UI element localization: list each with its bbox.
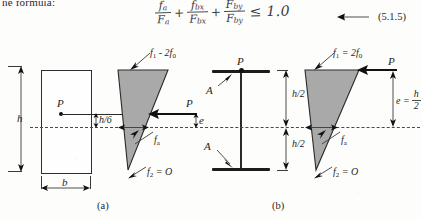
label-top-stress-b: f1 = 2f0: [333, 47, 362, 60]
term1-numerator: fa: [157, 0, 170, 12]
label-h-over-6-a: h/6: [99, 114, 112, 125]
label-fa-a: fa: [154, 134, 160, 147]
formula-plus-2: +: [210, 5, 222, 19]
label-fa-b: fa: [341, 134, 347, 147]
f2-leader-b: [314, 165, 334, 179]
interaction-formula: fa Fa + fbx Fbx + Fby Fby ≤ 1.0: [155, 0, 291, 26]
label-P-stress-b: P: [388, 55, 395, 67]
height-ext-line-top-a: [8, 66, 22, 67]
label-P-section-b: P: [237, 55, 244, 67]
formula-term-fby-Fby: Fby Fby: [224, 0, 245, 24]
height-ext-line-bottom-a: [8, 171, 22, 172]
formula-term-fbx-Fbx: fbx Fbx: [187, 0, 208, 25]
load-arrow-head-b: [357, 64, 369, 76]
caption-b: (b): [272, 200, 284, 211]
stress-triangle-a: [118, 66, 176, 172]
intro-text: he formula:: [2, 0, 55, 8]
caption-a: (a): [97, 200, 109, 211]
label-P-section-a: P: [57, 97, 64, 109]
flange-leader-top-b: [216, 74, 232, 88]
figure-page: he formula: fa Fa + fbx Fbx + Fby Fby ≤ …: [0, 0, 421, 219]
f2-leader-a: [128, 165, 148, 179]
label-e-equals-h-over-2-b: e = h 2: [396, 89, 421, 111]
term2-numerator: fbx: [189, 0, 206, 11]
load-arrow-head-a: [148, 108, 160, 120]
formula-term-fa-Fa: fa Fa: [155, 0, 172, 26]
flange-leader-bottom-b: [215, 148, 233, 168]
half-height-dimension-top-b: [281, 70, 291, 127]
label-A-top-b: A: [206, 84, 213, 96]
equation-number: (5.1.5): [378, 11, 406, 22]
web-b: [240, 72, 242, 170]
load-point-b: [239, 68, 244, 73]
top-stress-leader-a: [130, 52, 152, 70]
dim-ext-bottom-b: [277, 170, 288, 171]
label-h-over-2-bottom-b: h/2: [292, 138, 305, 149]
term3-numerator: Fby: [224, 0, 245, 10]
term1-denominator: Fa: [155, 14, 171, 26]
width-ext-line-right-a: [90, 176, 91, 189]
bottom-flange-b: [212, 168, 270, 171]
width-ext-line-left-a: [41, 176, 42, 189]
label-f2-zero-b: f2 = O: [333, 166, 358, 179]
label-f2-zero-a: f2 = O: [147, 166, 172, 179]
term2-denominator: Fbx: [187, 13, 208, 25]
formula-plus-1: +: [173, 5, 185, 19]
fa-leader-a: [133, 130, 155, 146]
eccentricity-fraction-b: h 2: [412, 89, 421, 111]
formula-limit-value: 1.0: [266, 2, 290, 18]
label-h-a: h: [17, 112, 23, 124]
fa-leader-b: [320, 130, 342, 146]
dim-ext-top-b: [277, 70, 288, 71]
load-arrow-shaft-a: [155, 113, 197, 115]
half-height-dimension-bottom-b: [281, 128, 291, 170]
label-b-a: b: [62, 176, 68, 188]
rectangular-section-a: [41, 70, 92, 174]
label-top-stress-a: f1 - 2f0: [150, 47, 176, 60]
formula-relation-operator: ≤: [246, 3, 264, 19]
label-P-stress-a: P: [186, 97, 193, 109]
equation-pointer-arrow: [337, 12, 370, 22]
label-A-bottom-b: A: [204, 140, 211, 152]
label-h-over-2-top-b: h/2: [292, 88, 305, 99]
term3-denominator: Fby: [224, 12, 245, 24]
label-e-a: e: [199, 114, 204, 126]
stress-triangle-b: [305, 66, 367, 172]
